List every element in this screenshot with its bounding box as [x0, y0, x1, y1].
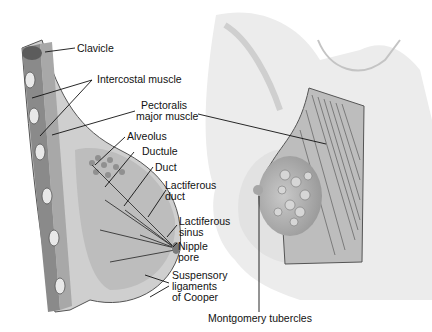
label-ductule: Ductule [142, 146, 178, 157]
nipple [253, 185, 263, 195]
label-nipple-pore-line2: pore [178, 252, 199, 263]
label-lactiferous-duct-line2: duct [165, 191, 185, 202]
label-duct: Duct [155, 162, 177, 173]
label-intercostal-muscle: Intercostal muscle [97, 74, 182, 85]
torso-figure [206, 12, 432, 300]
breast-anatomy-diagram: Clavicle Intercostal muscle Pectoralis m… [0, 0, 432, 332]
label-alveolus: Alveolus [127, 131, 167, 142]
label-pectoralis-line2: major muscle [136, 111, 198, 122]
label-suspensory-line3: of Cooper [172, 292, 218, 303]
label-lactiferous-sinus-line2: sinus [179, 227, 204, 238]
label-montgomery-tubercles: Montgomery tubercles [208, 313, 312, 324]
clavicle-bone [22, 46, 42, 60]
label-clavicle: Clavicle [77, 43, 114, 54]
